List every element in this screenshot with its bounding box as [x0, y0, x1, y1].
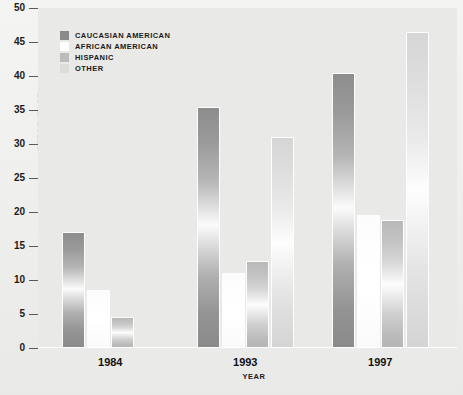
x-axis-tick-label: 1997 [368, 356, 392, 368]
bar-1984-series-0 [62, 232, 85, 348]
bar-1997-series-3 [406, 32, 429, 348]
bar-1984-series-1 [87, 290, 110, 348]
bar-1993-series-1 [222, 273, 245, 348]
bar-1993-series-3 [271, 137, 294, 348]
y-axis-tick-mark [29, 76, 38, 78]
bar-chart: 05101520253035404550 PERCENTAGE YEAR CAU… [0, 0, 463, 395]
x-axis-tick-label: 1993 [233, 356, 257, 368]
axis-baseline [38, 347, 457, 348]
legend-item-label: CAUCASIAN AMERICAN [75, 31, 170, 40]
legend-item-label: OTHER [75, 64, 104, 73]
y-axis-tick-mark [29, 314, 38, 316]
legend-item: HISPANIC [60, 52, 220, 63]
y-axis-tick-mark [29, 348, 38, 350]
legend-swatch-hispanic [60, 53, 69, 62]
y-axis-tick-label: 30 [14, 138, 25, 150]
bar-1984-series-2 [111, 317, 134, 348]
x-axis-title: YEAR [242, 372, 265, 381]
y-axis-tick-label: 45 [14, 36, 25, 48]
y-axis-tick-label: 35 [14, 104, 25, 116]
legend-item: OTHER [60, 63, 220, 74]
legend-swatch-caucasian-american [60, 31, 69, 40]
y-axis-tick-label: 10 [14, 274, 25, 286]
y-axis-tick-mark [29, 212, 38, 214]
legend-swatch-african-american [60, 42, 69, 51]
legend-item-label: AFRICAN AMERICAN [75, 42, 158, 51]
legend-item-label: HISPANIC [75, 53, 114, 62]
y-axis-tick-mark [29, 42, 38, 44]
y-axis-tick-mark [29, 8, 38, 10]
y-axis-tick-label: 15 [14, 240, 25, 252]
y-axis: 05101520253035404550 [0, 8, 38, 348]
legend-item: AFRICAN AMERICAN [60, 41, 220, 52]
y-axis-tick-mark [29, 246, 38, 248]
legend-swatch-other [60, 64, 69, 73]
y-axis-tick-label: 40 [14, 70, 25, 82]
y-axis-tick-label: 25 [14, 172, 25, 184]
bar-1993-series-0 [197, 107, 220, 348]
y-axis-tick-label: 50 [14, 2, 25, 14]
y-axis-tick-label: 0 [19, 342, 25, 354]
legend-item: CAUCASIAN AMERICAN [60, 30, 220, 41]
y-axis-tick-label: 20 [14, 206, 25, 218]
y-axis-tick-mark [29, 178, 38, 180]
y-axis-tick-label: 5 [19, 308, 25, 320]
bar-1997-series-2 [381, 220, 404, 348]
x-axis-tick-label: 1984 [98, 356, 122, 368]
bar-1997-series-1 [357, 215, 380, 348]
bar-1997-series-0 [332, 73, 355, 348]
bar-1993-series-2 [246, 261, 269, 348]
y-axis-tick-mark [29, 280, 38, 282]
legend: CAUCASIAN AMERICANAFRICAN AMERICANHISPAN… [60, 30, 220, 74]
